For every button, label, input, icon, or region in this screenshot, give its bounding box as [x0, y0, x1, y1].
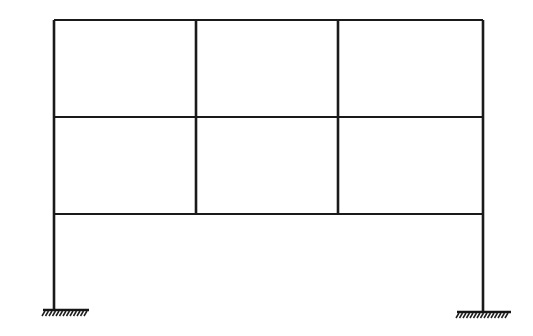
frame-drawing-canvas — [0, 0, 533, 336]
structural-frame-diagram: Two-storey three-bay rigid plane frame o… — [0, 0, 533, 336]
drawing-background — [0, 0, 533, 336]
